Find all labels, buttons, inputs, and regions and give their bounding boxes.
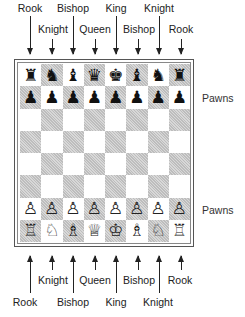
arrow-down-icon	[30, 16, 31, 54]
arrow-up-icon	[116, 256, 117, 293]
board-square	[126, 109, 147, 131]
label-black-pawns: Pawns	[202, 92, 234, 104]
arrow-down-icon	[52, 39, 53, 54]
label-bottom-king: King	[105, 296, 126, 308]
label-top-king: King	[105, 2, 126, 14]
board-square	[20, 153, 41, 175]
board-square: ♙	[169, 198, 190, 220]
board-square: ♔	[105, 220, 126, 242]
board-square: ♟	[148, 86, 169, 108]
chess-piece-icon: ♟	[108, 89, 123, 106]
chess-piece-icon: ♜	[172, 67, 187, 84]
chess-piece-icon: ♗	[66, 222, 81, 239]
label-bottom-rook-left: Rook	[13, 296, 38, 308]
chess-piece-icon: ♖	[23, 222, 38, 239]
board-square	[105, 175, 126, 197]
label-bottom-knight-right: Knight	[143, 296, 173, 308]
chess-piece-icon: ♟	[23, 89, 38, 106]
arrow-up-icon	[73, 256, 74, 293]
board-square: ♙	[126, 198, 147, 220]
board-square: ♝	[126, 64, 147, 86]
label-white-pawns: Pawns	[202, 204, 234, 216]
board-square	[169, 109, 190, 131]
board-square: ♖	[20, 220, 41, 242]
label-top-knight-right: Knight	[144, 2, 174, 14]
board-square: ♟	[126, 86, 147, 108]
board-square	[63, 131, 84, 153]
chess-piece-icon: ♟	[87, 89, 102, 106]
chess-piece-icon: ♛	[87, 67, 102, 84]
board-square	[148, 109, 169, 131]
board-square: ♙	[105, 198, 126, 220]
board-square: ♕	[84, 220, 105, 242]
board-square	[63, 153, 84, 175]
arrow-down-icon	[73, 16, 74, 54]
board-square: ♙	[84, 198, 105, 220]
board-square	[63, 109, 84, 131]
board-square: ♟	[63, 86, 84, 108]
chess-piece-icon: ♞	[151, 67, 166, 84]
board-square: ♙	[41, 198, 62, 220]
board-square: ♟	[20, 86, 41, 108]
arrow-up-icon	[181, 256, 182, 270]
board-square: ♞	[148, 64, 169, 86]
chess-piece-icon: ♚	[108, 67, 123, 84]
label-bottom-bishop-left: Bishop	[57, 296, 89, 308]
board-square	[148, 153, 169, 175]
chess-piece-icon: ♟	[129, 89, 144, 106]
chess-piece-icon: ♗	[129, 222, 144, 239]
board-square: ♛	[84, 64, 105, 86]
chess-piece-icon: ♟	[172, 89, 187, 106]
board-square	[169, 175, 190, 197]
board-square: ♞	[41, 64, 62, 86]
board-square	[126, 175, 147, 197]
board-square	[84, 175, 105, 197]
board-square	[148, 175, 169, 197]
board-square	[41, 153, 62, 175]
label-top-rook-right: Rook	[169, 23, 194, 35]
label-top-bishop-left: Bishop	[57, 2, 89, 14]
arrow-down-icon	[116, 16, 117, 54]
chess-piece-icon: ♕	[87, 222, 102, 239]
chess-piece-icon: ♙	[172, 200, 187, 217]
board-square	[126, 153, 147, 175]
label-bottom-knight-left: Knight	[38, 274, 68, 286]
chessboard: ♜♞♝♛♚♝♞♜♟♟♟♟♟♟♟♟♙♙♙♙♙♙♙♙♖♘♗♕♔♗♘♖	[20, 64, 190, 242]
board-square: ♜	[169, 64, 190, 86]
label-bottom-rook-right: Rook	[168, 274, 193, 286]
board-square	[105, 131, 126, 153]
board-square: ♗	[126, 220, 147, 242]
chess-piece-icon: ♘	[44, 222, 59, 239]
chess-piece-icon: ♟	[151, 89, 166, 106]
board-square: ♙	[63, 198, 84, 220]
arrow-down-icon	[181, 39, 182, 54]
board-square	[105, 153, 126, 175]
board-square	[105, 109, 126, 131]
board-square: ♗	[63, 220, 84, 242]
board-square	[20, 109, 41, 131]
arrow-up-icon	[52, 256, 53, 270]
label-top-knight-left: Knight	[38, 23, 68, 35]
board-square: ♚	[105, 64, 126, 86]
chess-piece-icon: ♙	[44, 200, 59, 217]
board-square: ♟	[105, 86, 126, 108]
label-top-rook-left: Rook	[18, 2, 43, 14]
board-square: ♜	[20, 64, 41, 86]
chess-piece-icon: ♝	[66, 67, 81, 84]
label-top-queen: Queen	[79, 23, 111, 35]
chess-piece-icon: ♙	[129, 200, 144, 217]
board-square	[20, 131, 41, 153]
arrow-up-icon	[159, 256, 160, 293]
board-square: ♘	[148, 220, 169, 242]
board-square: ♝	[63, 64, 84, 86]
chess-piece-icon: ♘	[151, 222, 166, 239]
label-top-bishop-right: Bishop	[123, 23, 155, 35]
arrow-down-icon	[138, 39, 139, 54]
board-square: ♘	[41, 220, 62, 242]
board-square: ♙	[20, 198, 41, 220]
board-square	[63, 175, 84, 197]
chess-piece-icon: ♝	[129, 67, 144, 84]
board-square	[126, 131, 147, 153]
chess-piece-icon: ♖	[172, 222, 187, 239]
board-square: ♖	[169, 220, 190, 242]
